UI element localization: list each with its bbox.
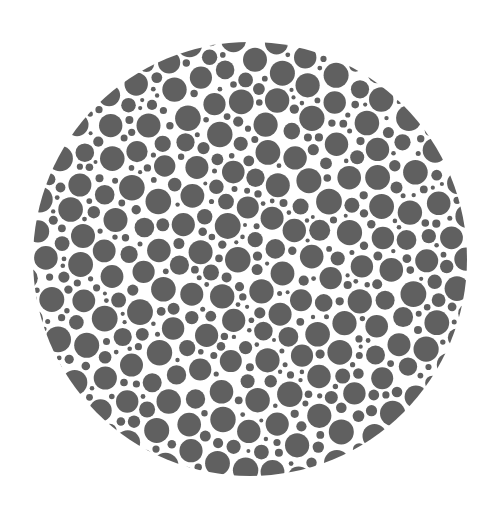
- dot-plate: [0, 0, 487, 506]
- dot-field: [17, 27, 479, 489]
